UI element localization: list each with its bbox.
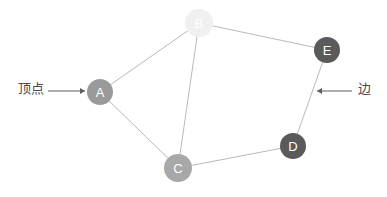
graph-svg: ABCDE <box>0 0 387 197</box>
annotation-label-vertex: 顶点 <box>18 82 44 95</box>
graph-edge-b-c <box>178 23 199 168</box>
graph-edge-c-d <box>178 146 293 168</box>
graph-edge-b-e <box>199 23 327 50</box>
node-label-e: E <box>323 43 332 58</box>
graph-edge-a-b <box>100 23 199 92</box>
graph-edge-a-c <box>100 92 178 168</box>
graph-node-a[interactable]: A <box>87 79 113 105</box>
node-label-b: B <box>195 16 204 31</box>
nodes-layer: ABCDE <box>87 9 340 182</box>
graph-node-e[interactable]: E <box>314 37 340 63</box>
annotation-arrow-edge-arrowhead-icon <box>317 88 322 94</box>
graph-node-c[interactable]: C <box>164 154 192 182</box>
node-label-c: C <box>173 161 182 176</box>
annotation-arrow-vertex-arrowhead-icon <box>80 88 85 94</box>
graph-diagram-canvas: ABCDE 顶点 边 <box>0 0 387 197</box>
node-label-d: D <box>288 139 297 154</box>
annotation-label-edge: 边 <box>358 82 371 95</box>
graph-edge-d-e <box>293 50 327 146</box>
node-label-a: A <box>96 85 105 100</box>
graph-node-d[interactable]: D <box>280 133 306 159</box>
graph-node-b[interactable]: B <box>185 9 213 37</box>
